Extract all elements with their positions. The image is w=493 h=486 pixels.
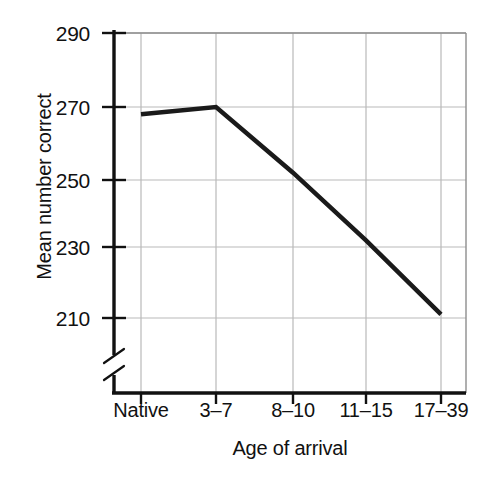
plot-frame (113, 33, 466, 393)
x-tick-label-8-10: 8–10 (271, 399, 315, 422)
chart-figure: Mean number correct 290 270 250 230 210 (0, 0, 493, 486)
x-tick-label-native: Native (113, 399, 169, 422)
x-tick-label-3-7: 3–7 (200, 399, 233, 422)
horizontal-gridlines (113, 33, 466, 318)
vertical-gridlines (141, 33, 441, 393)
x-axis-title: Age of arrival (110, 437, 470, 460)
x-tick-label-11-15: 11–15 (339, 399, 392, 422)
x-axis-tick-labels: Native 3–7 8–10 11–15 17–39 (0, 399, 493, 433)
data-series-line (141, 107, 441, 314)
x-tick-label-17-39: 17–39 (414, 399, 469, 422)
